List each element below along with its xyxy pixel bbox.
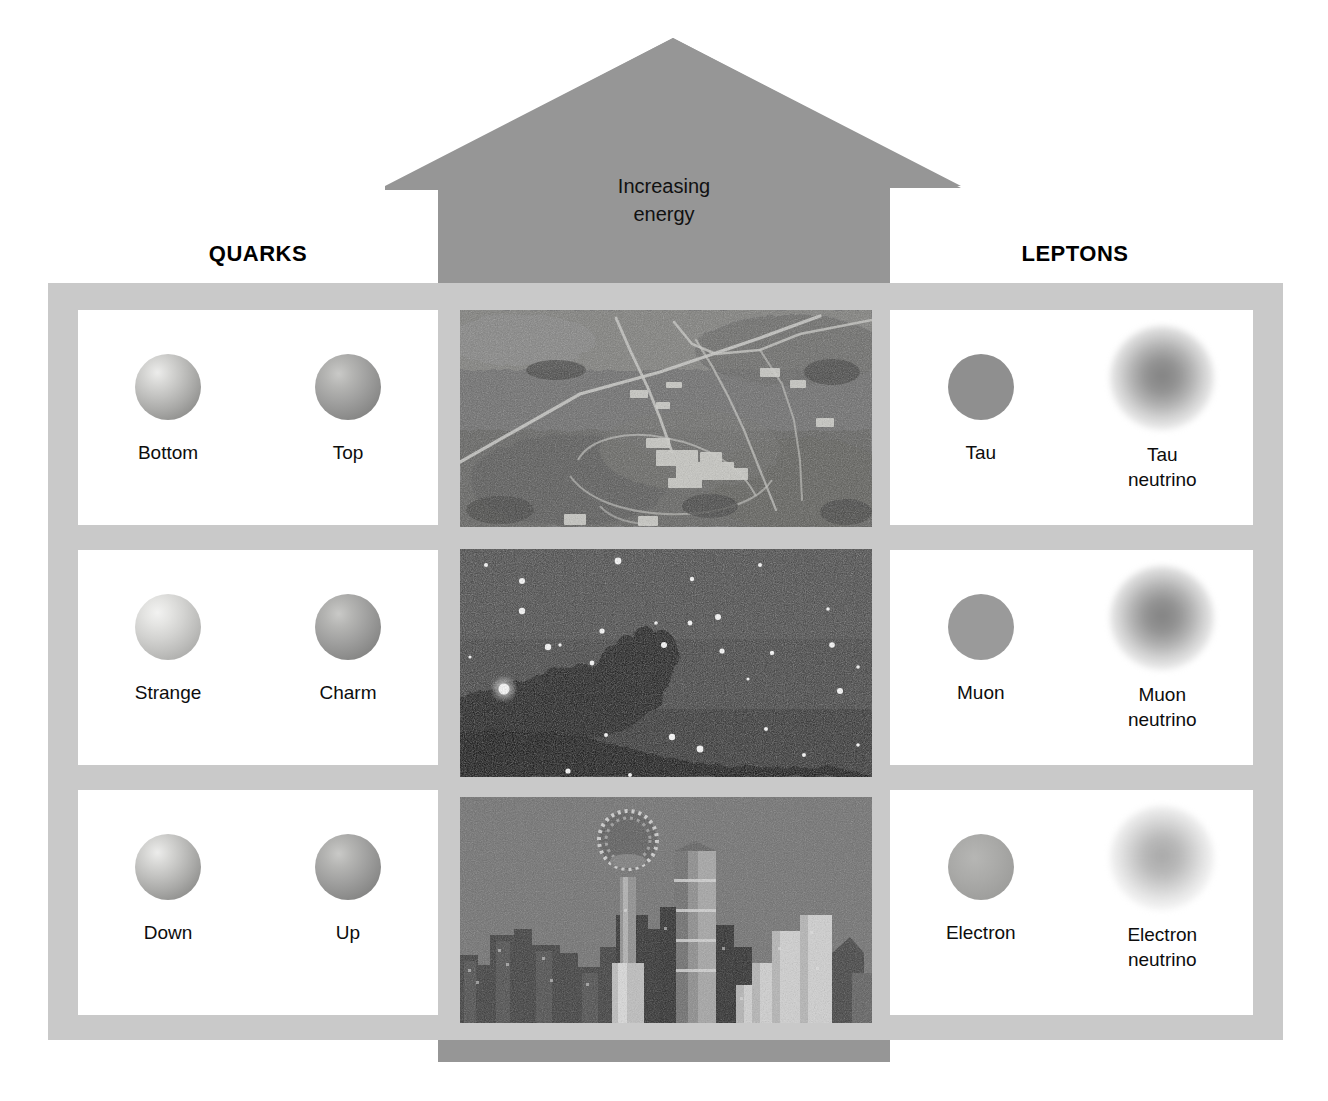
particle-label: Bottom xyxy=(138,440,198,465)
particle-label: Charm xyxy=(319,680,376,705)
leptons-group-title: LEPTONS xyxy=(955,241,1195,267)
strange-quark-sphere-icon xyxy=(135,594,201,660)
particle-label: Up xyxy=(336,920,360,945)
tau-sphere-icon xyxy=(948,354,1014,420)
city-skyline-photo xyxy=(460,797,872,1023)
particle-cell-electron-neutrino[interactable]: Electron neutrino xyxy=(1072,790,1254,972)
quarks-group-title: QUARKS xyxy=(148,241,368,267)
particle-cell-strange[interactable]: Strange xyxy=(78,550,258,705)
up-quark-sphere-icon xyxy=(315,834,381,900)
diagram-canvas: Increasing energy QUARKS LEPTONS Bottom … xyxy=(0,0,1328,1101)
increasing-energy-label: Increasing energy xyxy=(438,172,890,228)
particle-label: Down xyxy=(144,920,193,945)
increasing-energy-arrow-head xyxy=(385,38,961,190)
particle-label: Electron neutrino xyxy=(1127,922,1197,972)
quarks-row-1-card: Down Up xyxy=(78,790,438,1015)
tau-neutrino-cloud-icon xyxy=(1110,326,1214,430)
aerial-laboratory-photo xyxy=(460,310,872,527)
particle-cell-up[interactable]: Up xyxy=(258,790,438,945)
electron-neutrino-cloud-wrap xyxy=(1110,834,1214,900)
down-quark-sphere-icon xyxy=(135,834,201,900)
particle-label: Muon neutrino xyxy=(1128,682,1197,732)
muon-sphere-icon xyxy=(948,594,1014,660)
leptons-row-3-card: Tau Tau neutrino xyxy=(890,310,1253,525)
particle-cell-tau-neutrino[interactable]: Tau neutrino xyxy=(1072,310,1254,492)
particle-cell-charm[interactable]: Charm xyxy=(258,550,438,705)
tau-neutrino-cloud-wrap xyxy=(1110,354,1214,420)
particle-label: Electron xyxy=(946,920,1016,945)
quarks-row-2-card: Strange Charm xyxy=(78,550,438,765)
particle-label: Top xyxy=(333,440,364,465)
electron-sphere-icon xyxy=(948,834,1014,900)
particle-cell-muon[interactable]: Muon xyxy=(890,550,1072,705)
particle-label: Tau xyxy=(965,440,996,465)
electron-neutrino-cloud-icon xyxy=(1110,806,1214,910)
particle-cell-top[interactable]: Top xyxy=(258,310,438,465)
leptons-row-1-card: Electron Electron neutrino xyxy=(890,790,1253,1015)
particle-cell-bottom[interactable]: Bottom xyxy=(78,310,258,465)
particle-cell-muon-neutrino[interactable]: Muon neutrino xyxy=(1072,550,1254,732)
muon-neutrino-cloud-icon xyxy=(1110,566,1214,670)
charm-quark-sphere-icon xyxy=(315,594,381,660)
leptons-row-2-card: Muon Muon neutrino xyxy=(890,550,1253,765)
quarks-row-3-card: Bottom Top xyxy=(78,310,438,525)
particle-cell-tau[interactable]: Tau xyxy=(890,310,1072,465)
nebula-star-field-photo xyxy=(460,549,872,777)
top-quark-sphere-icon xyxy=(315,354,381,420)
particle-cell-down[interactable]: Down xyxy=(78,790,258,945)
particle-cell-electron[interactable]: Electron xyxy=(890,790,1072,945)
bottom-quark-sphere-icon xyxy=(135,354,201,420)
particle-label: Tau neutrino xyxy=(1128,442,1197,492)
muon-neutrino-cloud-wrap xyxy=(1110,594,1214,660)
particle-label: Muon xyxy=(957,680,1005,705)
particle-label: Strange xyxy=(135,680,202,705)
